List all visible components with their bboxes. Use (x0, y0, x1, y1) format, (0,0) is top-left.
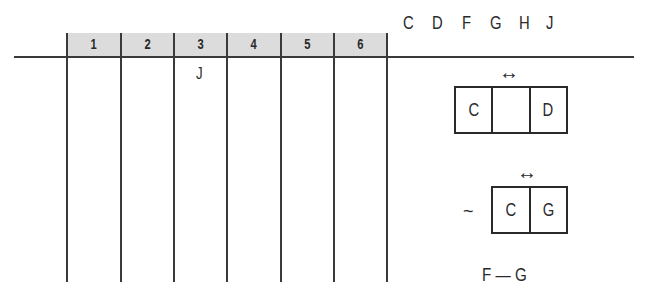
letter-g: G (490, 12, 502, 34)
negation-tilde: ~ (463, 201, 474, 222)
double-arrow-icon: ↔ (517, 162, 537, 182)
slot-divider (386, 33, 388, 282)
letter-h: H (519, 12, 530, 34)
letter-f: F (462, 12, 471, 34)
slot-divider (226, 33, 228, 282)
slot-label-1: 1 (72, 36, 114, 52)
slot-label-5: 5 (286, 36, 328, 52)
rule-1-cell: D (529, 88, 566, 132)
rule-3: F — G (482, 264, 527, 286)
slot-divider (66, 33, 68, 282)
slot-divider (173, 33, 175, 282)
baseline-divider (14, 56, 634, 58)
slot-label-4: 4 (232, 36, 274, 52)
rule-1-cell (491, 88, 528, 132)
rule-2-cell: G (529, 188, 567, 232)
slot-divider (120, 33, 122, 282)
rule-2-cell: C (493, 188, 529, 232)
slot-label-2: 2 (126, 36, 168, 52)
rule-1-block: C D (454, 86, 568, 134)
letter-c: C (403, 12, 414, 34)
slot-label-6: 6 (339, 36, 381, 52)
letter-j: J (546, 12, 553, 34)
rule-1-cell: C (456, 88, 491, 132)
slot-divider (333, 33, 335, 282)
slot-divider (280, 33, 282, 282)
double-arrow-icon: ↔ (499, 62, 519, 82)
letter-d: D (432, 12, 443, 34)
rule-2-block: C G (491, 186, 568, 234)
slot-3-value: J (196, 64, 203, 84)
slot-label-3: 3 (179, 36, 221, 52)
